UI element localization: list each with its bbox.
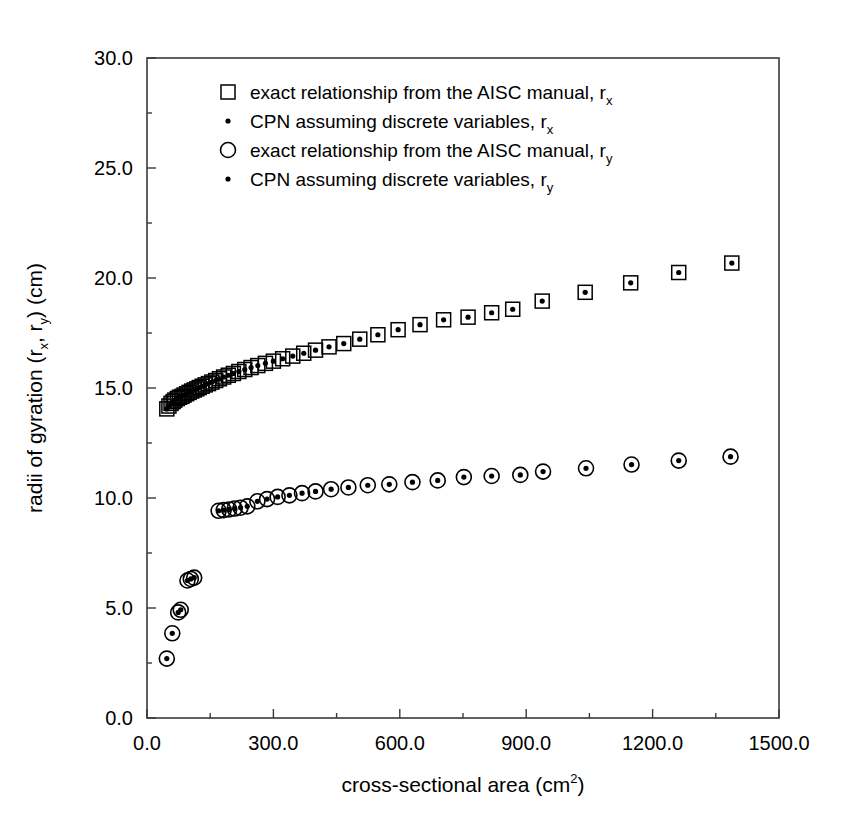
data-point <box>435 478 440 483</box>
data-point <box>629 462 634 467</box>
data-point <box>221 374 226 379</box>
series-3 <box>164 454 733 661</box>
x-tick-label: 0.0 <box>133 732 161 754</box>
data-point <box>287 493 292 498</box>
y-axis-title: radii of gyration (rx, ry) (cm) <box>23 263 51 513</box>
x-tick-label: 600.0 <box>375 732 425 754</box>
data-point <box>226 373 231 378</box>
series-0 <box>160 256 739 416</box>
data-point <box>465 315 470 320</box>
legend-marker <box>221 85 235 99</box>
data-point <box>313 489 318 494</box>
data-point <box>628 280 633 285</box>
data-point <box>255 499 260 504</box>
y-tick-label: 0.0 <box>105 707 133 729</box>
series-1 <box>164 260 734 411</box>
data-point <box>238 505 243 510</box>
data-point <box>248 365 253 370</box>
data-point <box>275 494 280 499</box>
data-point <box>236 369 241 374</box>
data-point <box>396 327 401 332</box>
data-point <box>410 480 415 485</box>
y-tick-label: 15.0 <box>94 377 133 399</box>
legend-label: CPN assuming discrete variables, ry <box>250 169 554 195</box>
data-point <box>729 260 734 265</box>
legend-marker <box>225 176 230 181</box>
x-tick-label: 1500.0 <box>748 732 809 754</box>
data-point <box>540 469 545 474</box>
data-point <box>221 508 226 513</box>
data-point <box>387 482 392 487</box>
data-point <box>676 458 681 463</box>
data-point <box>417 322 422 327</box>
scatter-plot: 0.0300.0600.0900.01200.01500.0cross-sect… <box>0 0 854 822</box>
data-point <box>231 371 236 376</box>
data-point <box>178 607 183 612</box>
legend: exact relationship from the AISC manual,… <box>221 82 613 195</box>
data-point <box>540 299 545 304</box>
data-point <box>299 491 304 496</box>
legend-label: CPN assuming discrete variables, rx <box>250 111 554 137</box>
y-tick-label: 30.0 <box>94 47 133 69</box>
data-point <box>583 466 588 471</box>
data-point <box>375 332 380 337</box>
legend-label: exact relationship from the AISC manual,… <box>250 140 613 166</box>
data-point <box>170 631 175 636</box>
data-point <box>461 475 466 480</box>
x-axis-title: cross-sectional area (cm2) <box>342 771 585 796</box>
data-point <box>264 497 269 502</box>
data-point <box>510 307 515 312</box>
y-tick-label: 5.0 <box>105 597 133 619</box>
series-2 <box>159 449 738 666</box>
data-point <box>518 472 523 477</box>
data-point <box>245 504 250 509</box>
legend-label: exact relationship from the AISC manual,… <box>250 82 613 108</box>
data-point <box>290 354 295 359</box>
x-tick-label: 900.0 <box>501 732 551 754</box>
legend-marker <box>221 143 236 158</box>
data-point <box>326 344 331 349</box>
chart-figure: 0.0300.0600.0900.01200.01500.0cross-sect… <box>0 0 854 822</box>
data-point <box>583 290 588 295</box>
data-point <box>301 351 306 356</box>
data-point <box>313 348 318 353</box>
data-point <box>441 317 446 322</box>
data-point <box>365 483 370 488</box>
y-axis: 0.05.010.015.020.025.030.0radii of gyrat… <box>23 47 156 729</box>
data-point <box>242 367 247 372</box>
data-point <box>489 473 494 478</box>
data-point <box>329 487 334 492</box>
data-point <box>676 270 681 275</box>
data-point <box>192 575 197 580</box>
data-point <box>271 359 276 364</box>
data-point <box>346 485 351 490</box>
x-tick-label: 1200.0 <box>622 732 683 754</box>
data-point <box>263 361 268 366</box>
data-point <box>232 506 237 511</box>
data-point <box>489 310 494 315</box>
x-tick-label: 300.0 <box>248 732 298 754</box>
y-tick-label: 25.0 <box>94 157 133 179</box>
data-point <box>728 454 733 459</box>
x-axis: 0.0300.0600.0900.01200.01500.0cross-sect… <box>133 709 809 796</box>
data-point <box>216 508 221 513</box>
data-point <box>280 356 285 361</box>
data-point <box>255 363 260 368</box>
data-point <box>164 656 169 661</box>
data-point <box>341 341 346 346</box>
data-point <box>357 337 362 342</box>
y-tick-label: 20.0 <box>94 267 133 289</box>
legend-marker <box>225 118 230 123</box>
data-point <box>227 507 232 512</box>
y-tick-label: 10.0 <box>94 487 133 509</box>
